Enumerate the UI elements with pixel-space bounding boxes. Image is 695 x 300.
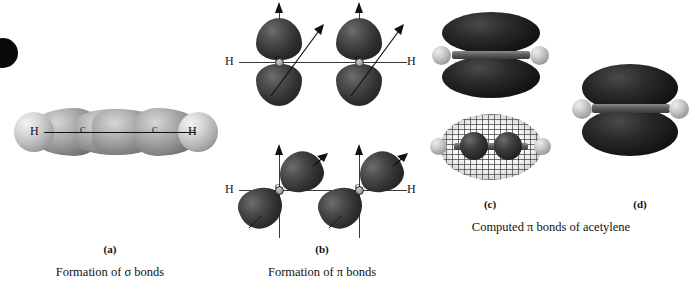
panel-d-label: (d) — [600, 198, 680, 210]
p-orbital-lobe — [256, 64, 302, 106]
panel-b-label: (b) — [282, 243, 362, 255]
hydrogen-atom — [669, 99, 689, 119]
carbon-center — [275, 58, 284, 67]
atom-label-h-right: H — [407, 182, 416, 197]
pi-lobe-lower — [582, 108, 678, 156]
panel-a-caption: Formation of σ bonds — [30, 265, 190, 280]
sigma-bond-axis — [44, 132, 196, 133]
hydrogen-atom — [432, 46, 451, 65]
computed-isosurface-wireframe — [424, 108, 556, 190]
atom-label-h-left: H — [225, 54, 234, 69]
pi-lobe-upper — [442, 12, 540, 54]
computed-pi-bonds-caption: Computed π bonds of acetylene — [446, 220, 656, 235]
carbon-center — [355, 58, 364, 67]
panel-c-label: (c) — [450, 198, 530, 210]
atom-label-c-right: C — [152, 126, 157, 135]
hydrogen-atom — [430, 138, 447, 155]
atom-label-h-left: H — [225, 182, 234, 197]
atom-label-h-left: H — [30, 124, 39, 139]
panel-d-computed-orbital — [566, 12, 694, 192]
panel-a-sigma-bonds: H H C C — [8, 100, 218, 170]
computed-isosurface-solid — [424, 4, 556, 104]
acetylene-bonding-figure: H H C C (a) Formation of σ bonds — [0, 0, 695, 300]
carbon-atom — [460, 132, 488, 160]
pi-lobe-lower — [442, 56, 540, 98]
p-orbital-lobe — [336, 18, 382, 60]
carbon-center — [275, 186, 284, 195]
panel-a-label: (a) — [70, 243, 150, 255]
corner-dot-mark — [0, 38, 18, 68]
carbon-carbon-bond — [592, 104, 670, 113]
hydrogen-atom — [572, 99, 592, 119]
carbon-center — [355, 186, 364, 195]
panel-b-pi-bonds: H H C C H H C C — [225, 0, 420, 240]
p-orbital-lobe — [256, 18, 302, 60]
panel-c-computed-orbital — [424, 4, 556, 194]
atom-label-c-left: C — [80, 126, 85, 135]
hydrogen-atom — [534, 138, 551, 155]
carbon-carbon-bond — [452, 51, 530, 59]
carbon-atom — [494, 132, 522, 160]
atom-label-h-right: H — [407, 54, 416, 69]
molecular-axis — [239, 62, 407, 63]
panel-b-caption: Formation of π bonds — [242, 265, 402, 280]
p-orbital-lobe — [336, 64, 382, 106]
hydrogen-atom — [530, 46, 549, 65]
